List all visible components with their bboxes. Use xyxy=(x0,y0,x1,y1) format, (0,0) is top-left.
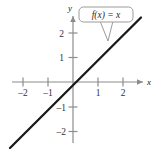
x-tick-label--1: –1 xyxy=(42,88,53,98)
y-axis xyxy=(69,16,78,143)
x-axis-label: x xyxy=(146,77,151,87)
x-tick-labels: –2 –1 1 2 xyxy=(17,88,125,98)
y-tick-label--2: –2 xyxy=(56,127,67,137)
x-tick-label-2: 2 xyxy=(121,88,126,98)
callout-label-fx-equals-x: f(x) = x xyxy=(92,10,121,21)
y-axis-arrowhead xyxy=(70,16,76,22)
y-tick-label--1: –1 xyxy=(56,103,67,113)
y-axis-label: y xyxy=(67,3,72,13)
x-tick-label-1: 1 xyxy=(96,88,101,98)
x-axis-arrowhead xyxy=(137,79,143,85)
y-tick-label-1: 1 xyxy=(59,53,64,63)
graph-canvas: –2 –1 1 2 2 1 –1 –2 x y f(x) = x xyxy=(0,0,157,159)
callout-pointer-tail xyxy=(100,21,113,41)
y-tick-labels: 2 1 –1 –2 xyxy=(56,29,67,138)
function-curve-fx-equals-x xyxy=(10,18,141,149)
function-graph-figure: –2 –1 1 2 2 1 –1 –2 x y f(x) = x xyxy=(0,0,157,159)
x-tick-label--2: –2 xyxy=(17,88,28,98)
y-tick-label-2: 2 xyxy=(59,29,64,39)
